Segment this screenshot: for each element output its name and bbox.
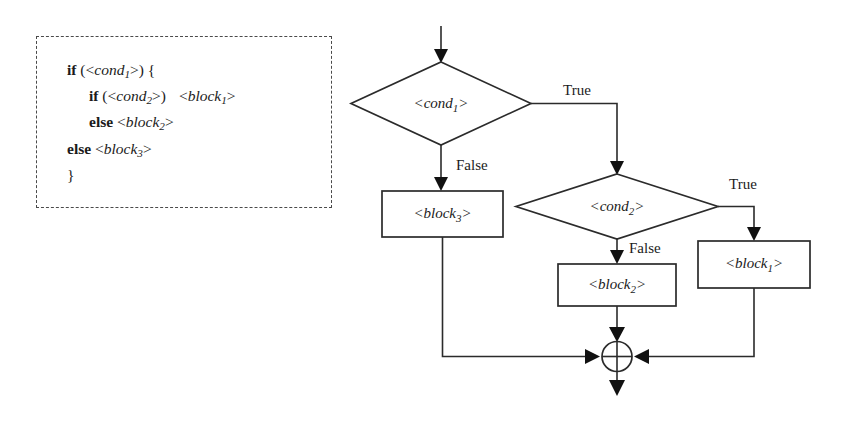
decision-cond1-label: <cond1> [414,95,469,113]
decision-cond2: <cond2> [516,174,718,239]
figure-root: if (<cond1>) { if (<cond2>)<block1> else… [0,0,845,423]
exit-arrow [609,372,625,397]
process-block2: <block2> [558,264,676,306]
process-block1-label: <block1> [725,255,783,273]
edge-label-cond1-true: True [563,82,591,98]
edge-label-cond2-false: False [629,240,661,256]
edge-cond2-false [610,239,624,264]
process-block1: <block1> [698,241,810,288]
edge-cond1-false [434,145,448,191]
decision-cond1: <cond1> [351,62,531,145]
edge-block2-to-merge [609,306,625,342]
process-block2-label: <block2> [588,276,646,294]
decision-cond2-label: <cond2> [590,198,645,216]
edge-cond1-true [531,104,624,176]
edge-label-cond2-true: True [729,176,757,192]
flowchart: <cond1> True False <block3> <cond2> [0,0,845,423]
edge-label-cond1-false: False [456,157,488,173]
process-block3-label: <block3> [413,205,471,223]
process-block3: <block3> [382,191,503,237]
merge-connector [602,342,632,372]
entry-arrow [434,26,448,63]
edge-cond2-true [718,207,761,242]
